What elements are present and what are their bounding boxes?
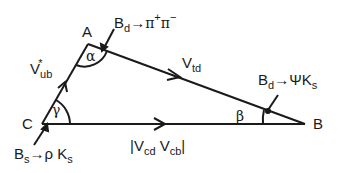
vtd-main: V — [182, 54, 192, 71]
vcd-open: |V — [130, 137, 144, 154]
vcb-main: V — [156, 137, 170, 154]
decay-gamma-sub: s — [67, 153, 73, 165]
angle-beta-label: β — [236, 109, 244, 123]
decay-gamma-label: Bs→ρ Ks — [14, 146, 73, 165]
vub-sub: ub — [40, 68, 52, 80]
vtd-sub: td — [192, 62, 201, 74]
pointer-gamma-head-icon — [42, 124, 48, 131]
arc-beta — [263, 110, 264, 124]
decay-gamma-prod: ρ K — [45, 145, 68, 162]
side-ab-label: Vtd — [182, 55, 201, 74]
decay-alpha-minus: − — [170, 11, 176, 23]
decay-alpha-label: Bd→π+π− — [114, 12, 176, 34]
angle-gamma-label: γ — [52, 103, 60, 117]
vcd-sub: cd — [144, 145, 156, 157]
vertex-a-label: A — [82, 24, 92, 39]
side-ca-label: Vub* — [30, 58, 43, 80]
vcb-close: | — [181, 137, 185, 154]
angle-alpha-label: α — [86, 49, 95, 63]
pointer-gamma — [34, 128, 45, 145]
decay-alpha-pi2: π — [161, 15, 170, 31]
arrow-right-icon: → — [130, 14, 145, 31]
decay-gamma-b: B — [14, 145, 24, 162]
side-cb-label: |Vcd Vcb| — [130, 138, 185, 157]
vertex-b-label: B — [313, 116, 323, 131]
pointer-beta-dot-icon — [266, 109, 270, 113]
decay-beta-sub: s — [312, 79, 318, 91]
arrow-right-icon: → — [30, 145, 45, 162]
decay-alpha-pi1: π — [145, 15, 154, 31]
vcb-sub: cb — [170, 145, 182, 157]
decay-alpha-b: B — [114, 14, 124, 31]
decay-beta-prod: ΨK — [289, 71, 312, 88]
decay-beta-b: B — [258, 71, 268, 88]
decay-beta-label: Bd→ΨKs — [258, 72, 317, 91]
vertex-c-label: C — [22, 116, 33, 131]
arrow-right-icon: → — [274, 71, 289, 88]
vub-sup: * — [38, 57, 42, 69]
